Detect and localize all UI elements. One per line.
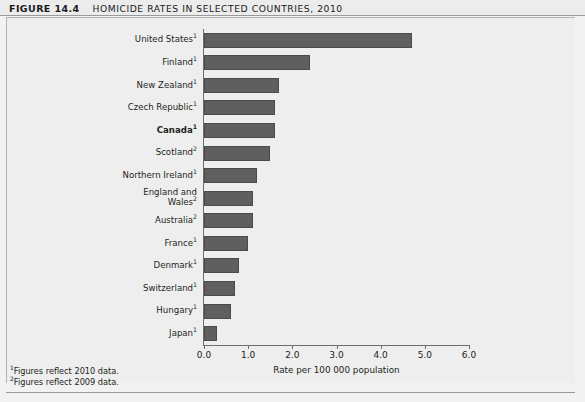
bar-category-label: Northern Ireland1 (47, 171, 197, 181)
bar-category-text: Scotland (156, 147, 193, 157)
x-axis-tick (469, 345, 470, 349)
bar-category-text: Finland (162, 57, 193, 67)
bar-category-label: France1 (47, 239, 197, 249)
bar-category-footnote-marker: 2 (193, 145, 197, 152)
footnote-2-text: Figures reflect 2009 data. (14, 377, 119, 387)
bar (204, 191, 253, 206)
bar-category-footnote-marker: 1 (193, 168, 197, 175)
figure-container: FIGURE 14.4 HOMICIDE RATES IN SELECTED C… (0, 0, 585, 402)
bar-category-label: Switzerland1 (47, 284, 197, 294)
header-divider (0, 15, 585, 16)
footnote-1-text: Figures reflect 2010 data. (14, 366, 119, 376)
figure-header: FIGURE 14.4 HOMICIDE RATES IN SELECTED C… (0, 0, 585, 16)
x-axis-tick (292, 345, 293, 349)
bar-category-footnote-marker: 1 (193, 33, 197, 40)
x-axis-tick-label: 1.0 (241, 350, 255, 360)
bar (204, 123, 275, 138)
bar-row: Canada1 (204, 119, 275, 142)
x-axis-tick-label: 3.0 (329, 350, 343, 360)
bar-row: United States1 (204, 29, 412, 52)
bar (204, 304, 231, 319)
bar-category-footnote-marker: 1 (193, 55, 197, 62)
bar-category-label: Japan1 (47, 329, 197, 339)
bar-category-text: Canada (157, 125, 193, 135)
bar-category-footnote-marker: 1 (193, 258, 197, 265)
figure-body: United States1Finland1New Zealand1Czech … (6, 17, 575, 383)
bar (204, 33, 412, 48)
bar-row: France1 (204, 232, 248, 255)
bar-category-label: Denmark1 (47, 261, 197, 271)
bar (204, 213, 253, 228)
bar-category-label: New Zealand1 (47, 81, 197, 91)
x-axis-title: Rate per 100 000 population (204, 365, 469, 375)
bar-row: England and Wales2 (204, 187, 253, 210)
bar-category-label: England and Wales2 (47, 188, 197, 208)
bar (204, 326, 217, 341)
bar-category-label: Scotland2 (47, 148, 197, 158)
bar-row: Denmark1 (204, 255, 239, 278)
bar-row: Scotland2 (204, 142, 270, 165)
x-axis-tick (337, 345, 338, 349)
x-axis-tick-label: 6.0 (462, 350, 476, 360)
footnote-1: 1Figures reflect 2010 data. (10, 366, 119, 377)
bar (204, 55, 310, 70)
bar-category-text: Denmark (154, 260, 194, 270)
bar-category-footnote-marker: 2 (193, 195, 197, 202)
bar-category-label: United States1 (47, 35, 197, 45)
x-axis-tick (381, 345, 382, 349)
figure-title: HOMICIDE RATES IN SELECTED COUNTRIES, 20… (93, 3, 343, 14)
bar-category-footnote-marker: 1 (193, 236, 197, 243)
x-axis-tick (425, 345, 426, 349)
bar-row: Switzerland1 (204, 277, 235, 300)
bar-category-text: England and Wales (143, 187, 197, 207)
bar-category-text: Hungary (156, 305, 193, 315)
bar (204, 168, 257, 183)
bar-category-text: New Zealand (137, 80, 193, 90)
bar (204, 281, 235, 296)
bar-row: Finland1 (204, 52, 310, 75)
x-axis-tick-label: 2.0 (285, 350, 299, 360)
bar (204, 258, 239, 273)
x-axis-tick-label: 0.0 (197, 350, 211, 360)
bar-category-label: Hungary1 (47, 306, 197, 316)
bar-row: Czech Republic1 (204, 97, 275, 120)
bar-category-text: United States (135, 34, 193, 44)
bar-row: Northern Ireland1 (204, 164, 257, 187)
bar-category-text: Czech Republic (128, 102, 193, 112)
bar-category-label: Czech Republic1 (47, 103, 197, 113)
bar-category-footnote-marker: 1 (193, 281, 197, 288)
bar-category-label: Australia2 (47, 216, 197, 226)
bar-category-footnote-marker: 1 (193, 326, 197, 333)
bar (204, 146, 270, 161)
bar (204, 78, 279, 93)
bar-category-label: Finland1 (47, 58, 197, 68)
bar-category-footnote-marker: 2 (193, 213, 197, 220)
bar-category-footnote-marker: 1 (193, 78, 197, 85)
bar-chart: United States1Finland1New Zealand1Czech … (7, 18, 576, 384)
figure-number: FIGURE 14.4 (9, 3, 80, 14)
bar-category-text: Japan (169, 328, 193, 338)
bar (204, 100, 275, 115)
x-axis-tick-label: 4.0 (373, 350, 387, 360)
bar-row: Hungary1 (204, 300, 231, 323)
bar-category-text: Northern Ireland (122, 170, 193, 180)
bar-category-text: Switzerland (143, 283, 193, 293)
footnotes: 1Figures reflect 2010 data. 2Figures ref… (10, 366, 119, 388)
bar-row: New Zealand1 (204, 74, 279, 97)
bar-category-footnote-marker: 1 (193, 123, 197, 130)
bar-category-label: Canada1 (47, 126, 197, 136)
bar-category-footnote-marker: 1 (193, 100, 197, 107)
bar (204, 236, 248, 251)
bottom-divider (6, 392, 575, 393)
footnote-2: 2Figures reflect 2009 data. (10, 377, 119, 388)
bar-category-text: France (164, 238, 193, 248)
x-axis-tick (248, 345, 249, 349)
x-axis-tick (204, 345, 205, 349)
bar-row: Australia2 (204, 210, 253, 233)
bar-row: Japan1 (204, 322, 217, 345)
plot-area: United States1Finland1New Zealand1Czech … (203, 29, 469, 346)
bar-category-text: Australia (155, 215, 193, 225)
bar-category-footnote-marker: 1 (193, 303, 197, 310)
x-axis-tick-label: 5.0 (418, 350, 432, 360)
